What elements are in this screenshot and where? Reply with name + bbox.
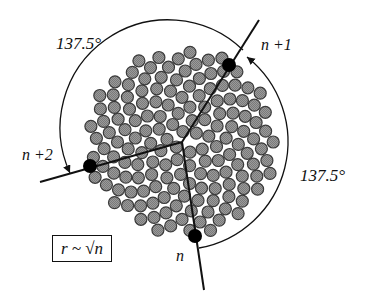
floret [196,143,208,155]
floret [103,127,115,139]
floret [132,159,144,171]
floret [147,197,159,209]
floret [135,200,147,212]
floret [176,91,188,103]
floret [153,52,165,64]
floret [176,213,188,225]
floret [129,115,141,127]
floret [135,213,147,225]
floret [119,124,131,136]
floret [121,91,133,103]
floret [168,182,180,194]
floret [238,183,250,195]
floret [194,216,206,228]
seed-dot-n [188,229,202,243]
floret [165,85,177,97]
floret [213,214,225,226]
floret [239,110,251,122]
floret [89,171,101,183]
floret [155,71,167,83]
seed-dot-n-plus-1 [222,58,236,72]
floret [193,73,205,85]
floret [236,95,248,107]
floret [129,132,141,144]
floret [150,181,162,193]
floret [90,132,102,144]
floret [126,66,138,78]
floret [236,195,248,207]
floret [219,203,231,215]
floret [184,101,196,113]
floret [211,95,223,107]
angle-label-top: 137.5° [56,34,101,54]
floret [241,147,253,159]
floret [224,149,236,161]
floret [211,120,223,132]
floret [255,143,267,155]
angle-label-right: 137.5° [300,166,345,186]
floret [203,130,215,142]
floret [236,170,248,182]
floret [113,184,125,196]
floret [193,90,205,102]
floret [139,73,151,85]
floret [212,155,224,167]
floret [220,166,232,178]
floret [232,138,244,150]
floret [141,110,153,122]
floret [196,182,208,194]
floret [192,194,204,206]
floret [137,97,149,109]
floret [260,125,272,137]
floret [190,58,202,70]
floret [248,133,260,145]
floret [162,99,174,111]
floret [184,146,196,158]
floret [85,120,97,132]
floret [153,123,165,135]
floret [251,170,263,182]
floret [147,156,159,168]
floret [209,183,221,195]
floret [211,141,223,153]
floret [98,115,110,127]
floret [223,191,235,203]
floret [160,207,172,219]
floret [172,53,184,65]
floret [242,82,254,94]
floret [205,224,217,236]
floret [171,154,183,166]
floret [205,68,217,80]
floret [232,208,244,220]
floret [109,197,121,209]
seed-label-n: n [176,247,184,265]
floret [125,186,137,198]
floret [140,125,152,137]
floret [252,183,264,195]
formula-box: r ~ √n [52,235,112,262]
floret [124,103,136,115]
floret [207,195,219,207]
floret [150,96,162,108]
floret [224,93,236,105]
floret [154,111,166,123]
floret [151,83,163,95]
floret [227,107,239,119]
floret [120,171,132,183]
floret [170,200,182,212]
floret [94,103,106,115]
floret [148,211,160,223]
floret [238,125,250,137]
floret [190,127,202,139]
floret [229,79,241,91]
floret [161,172,173,184]
seed-label-n-plus-1: n +1 [261,36,292,54]
floret [152,224,164,236]
floret [167,119,179,131]
floret [112,113,124,125]
floret [109,76,121,88]
floret [267,136,279,148]
floret [108,167,120,179]
floret [248,99,260,111]
floret [184,80,196,92]
